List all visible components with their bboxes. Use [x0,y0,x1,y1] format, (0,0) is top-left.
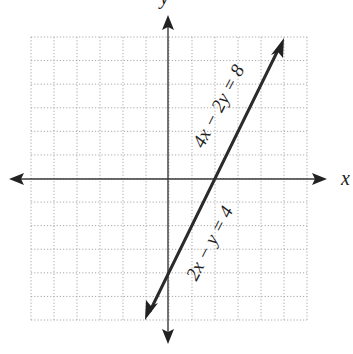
y-axis-label: y [158,0,169,9]
coordinate-graph: 4x − 2y = 8 2x − y = 4 x y [0,0,353,354]
x-axis-label: x [340,167,350,189]
equation-label-lower: 2x − y = 4 [181,202,237,284]
equation-label-upper: 4x − 2y = 8 [188,61,248,151]
line-upper-arrow-icon [271,38,284,58]
line-lower-arrow-icon [145,300,158,320]
